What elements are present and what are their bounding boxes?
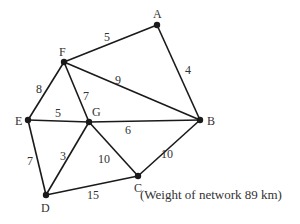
edge-weight-FE: 8 — [36, 82, 42, 96]
node-label-D: D — [41, 201, 50, 215]
edge-weight-EG: 5 — [55, 106, 61, 120]
edge-weight-BC: 10 — [161, 147, 173, 161]
edge-EG — [28, 120, 89, 122]
network-weight-caption: (Weight of network 89 km) — [140, 187, 282, 203]
node-label-A: A — [153, 7, 162, 21]
edge-weight-FA: 5 — [104, 30, 110, 44]
edge-FA — [64, 25, 157, 62]
node-B — [197, 117, 203, 123]
node-E — [25, 117, 31, 123]
node-G — [86, 119, 92, 125]
node-label-G: G — [92, 105, 101, 119]
edge-weight-FG: 7 — [83, 89, 89, 103]
edge-weight-GD: 3 — [60, 149, 66, 163]
edge-weight-DC: 15 — [87, 188, 99, 202]
edge-weight-AB: 4 — [185, 63, 191, 77]
node-label-B: B — [207, 114, 215, 128]
node-label-E: E — [15, 114, 22, 128]
node-C — [135, 173, 141, 179]
edge-weight-GB: 6 — [125, 123, 131, 137]
edge-AB — [157, 25, 200, 120]
edge-weight-ED: 7 — [27, 154, 33, 168]
edge-GB — [89, 120, 200, 122]
edge-GD — [46, 122, 89, 195]
node-A — [154, 22, 160, 28]
edge-weight-GC: 10 — [98, 152, 110, 166]
node-label-F: F — [59, 45, 66, 59]
edge-weight-FB: 9 — [115, 73, 121, 87]
node-D — [43, 192, 49, 198]
node-F — [61, 59, 67, 65]
